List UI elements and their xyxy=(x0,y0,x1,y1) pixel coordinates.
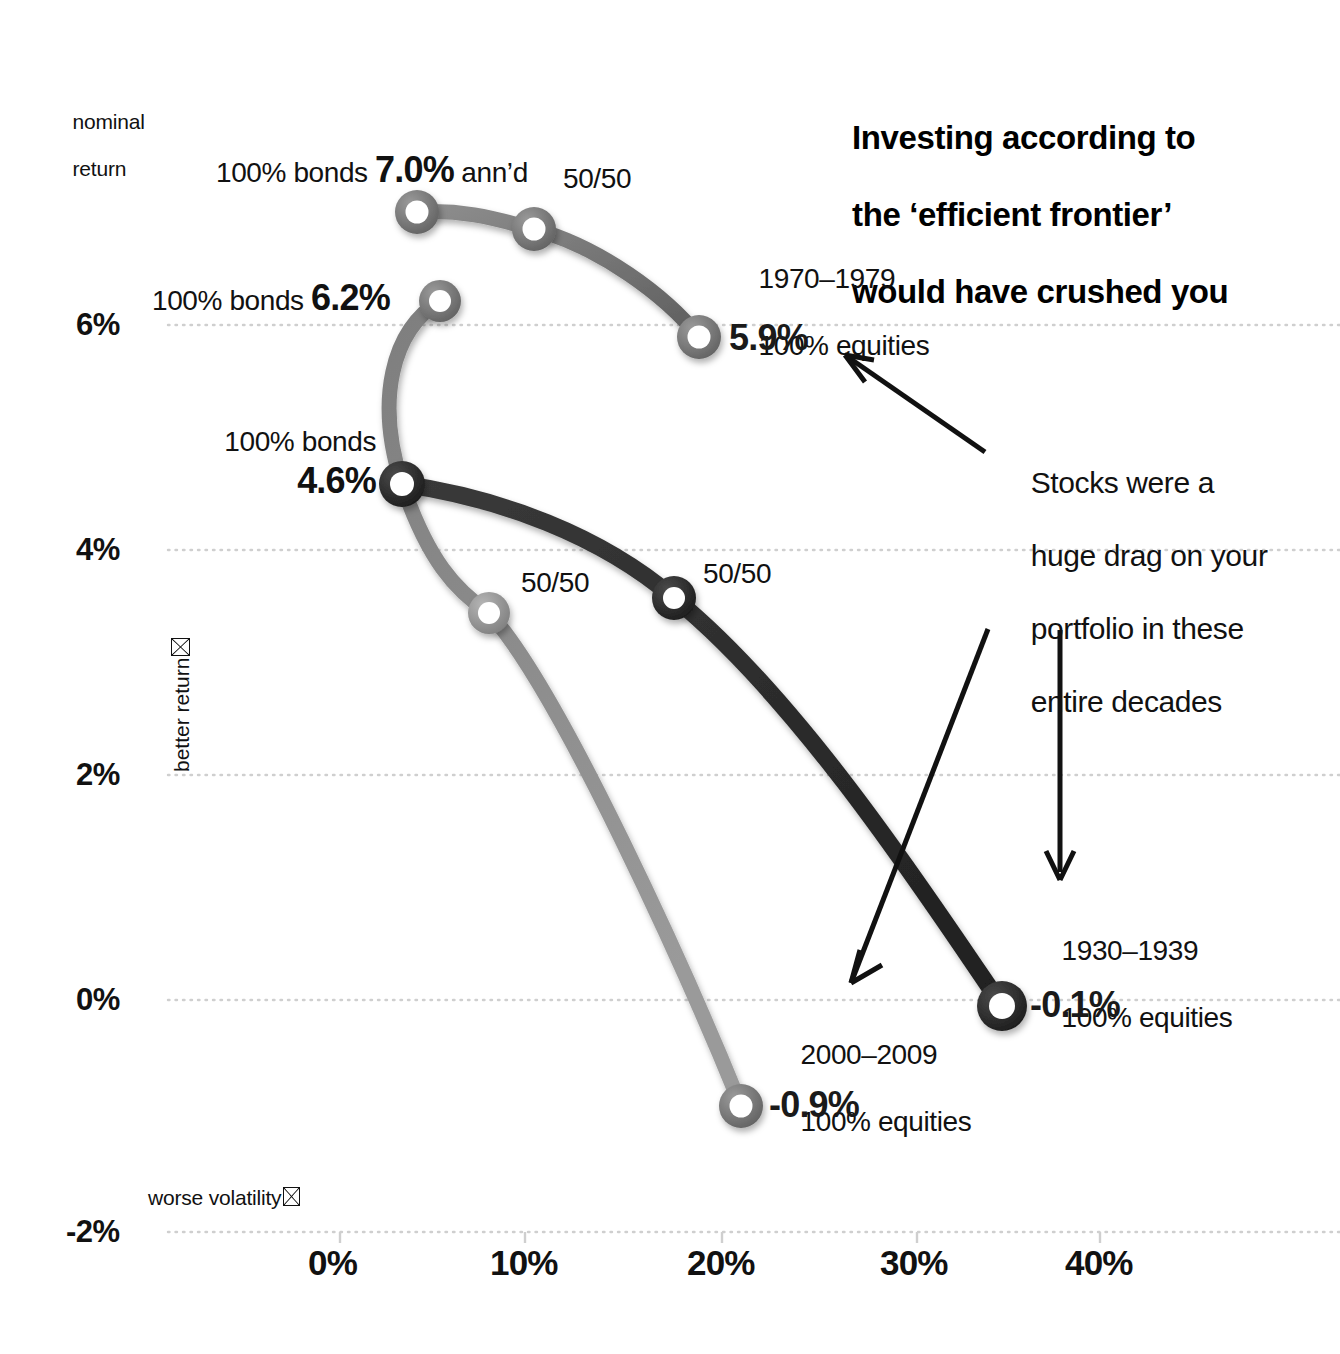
right-arrow-icon xyxy=(283,1187,300,1206)
marker-1930-equities[interactable] xyxy=(977,981,1027,1031)
marker-1930-bonds[interactable] xyxy=(379,461,425,507)
annotation-line-4: entire decades xyxy=(1031,685,1222,718)
series-line-2000-2009 xyxy=(389,301,741,1106)
label-1930-value: -0.1% xyxy=(1030,985,1120,1025)
y-tick-6: 6% xyxy=(76,308,120,343)
y-tick-2: 2% xyxy=(76,758,120,793)
label-1930-decade: 1930–1939 xyxy=(1062,935,1199,966)
marker-2000-5050[interactable] xyxy=(468,592,510,634)
x-direction-label: worse volatility xyxy=(148,1186,300,1210)
label-2000-decade: 2000–2009 xyxy=(801,1039,938,1070)
x-tick-0: 0% xyxy=(308,1243,357,1282)
label-1930-bonds-value: 4.6% xyxy=(297,460,376,501)
label-2000-bonds: 100% bonds 6.2% xyxy=(152,276,390,319)
marker-1970-bonds[interactable] xyxy=(395,190,439,234)
label-1970-bonds: 100% bonds 7.0% ann’d xyxy=(216,148,528,191)
label-2000-5050: 50/50 xyxy=(521,567,589,598)
marker-1930-5050[interactable] xyxy=(652,576,696,620)
x-tick-20: 20% xyxy=(687,1243,755,1282)
label-1930-bonds-alloc: 100% bonds xyxy=(224,426,376,457)
x-tick-30: 30% xyxy=(880,1243,948,1282)
x-tick-40: 40% xyxy=(1065,1243,1133,1282)
label-1970-5050: 50/50 xyxy=(563,163,631,194)
label-1930-5050: 50/50 xyxy=(703,558,771,589)
y-axis-caption-line2: return xyxy=(73,157,127,180)
label-1970-bonds-alloc: 100% bonds xyxy=(216,157,368,188)
label-1970-value: 5.9% xyxy=(729,318,808,358)
y-tick-neg2: -2% xyxy=(66,1215,120,1250)
label-1970-equities: 1970–1979 100% equities xyxy=(729,228,929,396)
series-line-1930-1939 xyxy=(402,484,1002,1006)
label-1970-bonds-value: 7.0% xyxy=(375,149,454,190)
label-1930-bonds: 100% bonds4.6% xyxy=(206,425,376,502)
y-direction-label: better return xyxy=(170,638,194,772)
annotation-line-3: portfolio in these xyxy=(1031,612,1244,645)
y-tick-0: 0% xyxy=(76,983,120,1018)
x-tickmarks xyxy=(340,1232,1100,1243)
marker-2000-bonds[interactable] xyxy=(419,280,461,322)
label-1970-decade: 1970–1979 xyxy=(759,263,896,294)
x-direction-label-text: worse volatility xyxy=(148,1186,281,1209)
x-tick-10: 10% xyxy=(490,1243,558,1282)
annotation-line-1: Stocks were a xyxy=(1031,466,1214,499)
chart-canvas: nominal return 6% 4% 2% 0% -2% 0% 10% 20… xyxy=(0,0,1340,1354)
label-2000-bonds-value: 6.2% xyxy=(311,277,390,318)
up-arrow-icon xyxy=(171,638,190,655)
marker-1970-5050[interactable] xyxy=(512,207,556,251)
label-2000-value: -0.9% xyxy=(769,1085,859,1125)
y-direction-label-text: better return xyxy=(170,658,193,772)
y-axis-caption-line1: nominal xyxy=(73,110,145,133)
annotation-stocks-drag: Stocks were a huge drag on your portfoli… xyxy=(999,428,1299,757)
label-2000-bonds-alloc: 100% bonds xyxy=(152,285,304,316)
y-tick-4: 4% xyxy=(76,533,120,568)
y-axis-caption: nominal return xyxy=(50,86,145,204)
annotation-line-2: huge drag on your xyxy=(1031,539,1268,572)
headline-line-1: Investing according to xyxy=(852,119,1195,156)
marker-1970-equities[interactable] xyxy=(677,315,721,359)
series-line-1970-1979 xyxy=(417,212,699,337)
marker-2000-equities[interactable] xyxy=(719,1084,763,1128)
label-1970-bonds-suffix: ann’d xyxy=(461,157,528,188)
